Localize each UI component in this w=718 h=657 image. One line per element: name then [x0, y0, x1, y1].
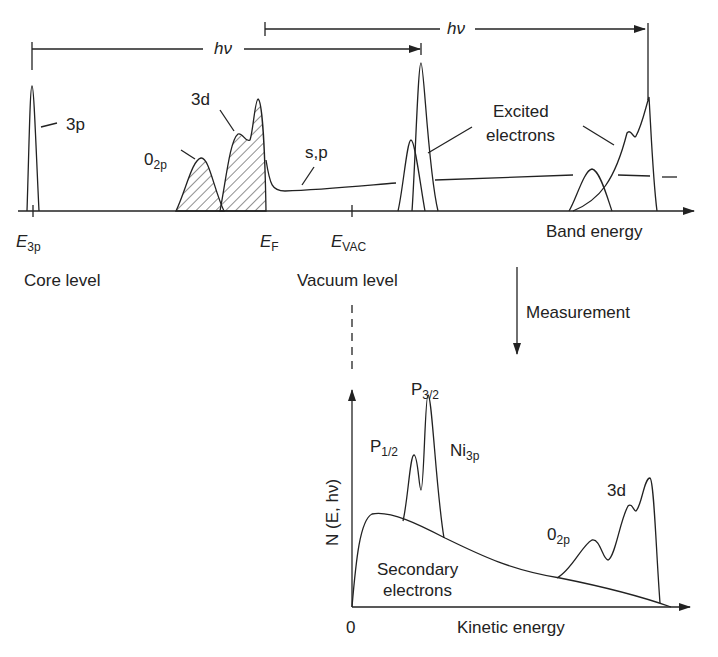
sp-label: s,p: [305, 143, 328, 162]
p32-label: P3/2: [411, 380, 439, 402]
d-band: [220, 99, 266, 211]
sp-band: [266, 160, 396, 191]
ni3p-doublet: [403, 395, 444, 538]
ef-label: EF: [260, 232, 279, 254]
origin-label: 0: [346, 618, 355, 637]
excited-peak-tall: [412, 63, 438, 211]
secondary-electrons-label-2: electrons: [383, 581, 452, 600]
evac-label: EVAC: [331, 232, 366, 254]
excited-electrons-label-1: Excited: [493, 102, 549, 121]
e3p-label: E3p: [16, 232, 41, 254]
core-3p-peak: [27, 86, 39, 211]
core-3p-label: 3p: [66, 115, 85, 134]
o2p-peak: [176, 158, 224, 211]
d-band-label: 3d: [191, 90, 210, 109]
excited-peak-small: [398, 140, 425, 211]
y-axis-label: N (E, hν): [323, 479, 342, 546]
excited-band-main: [573, 97, 657, 211]
measurement-label: Measurement: [526, 303, 630, 322]
o2p-label: 02p: [144, 150, 167, 172]
kinetic-energy-label: Kinetic energy: [457, 618, 565, 637]
secondary-electrons-label-1: Secondary: [377, 560, 459, 579]
excited-band-small: [569, 169, 612, 211]
bottom-spectrum: P1/2 P3/2 Ni3p 02p 3d Secondary electron…: [323, 380, 690, 637]
d-band-bottom-label: 3d: [607, 481, 626, 500]
p12-label: P1/2: [370, 437, 398, 459]
photon-label-1: hν: [214, 39, 232, 58]
photon-label-2: hν: [447, 19, 465, 38]
o2p-bottom-label: 02p: [547, 525, 570, 547]
top-band-diagram: hν hν 3p 02p 3d s,p Excited electrons Ba…: [16, 19, 694, 290]
core-level-caption: Core level: [24, 271, 101, 290]
measurement-arrow: Measurement: [517, 267, 630, 354]
band-energy-label: Band energy: [546, 222, 643, 241]
vacuum-level-caption: Vacuum level: [297, 271, 398, 290]
excited-electrons-label-2: electrons: [486, 126, 555, 145]
ni3p-label: Ni3p: [450, 441, 480, 463]
